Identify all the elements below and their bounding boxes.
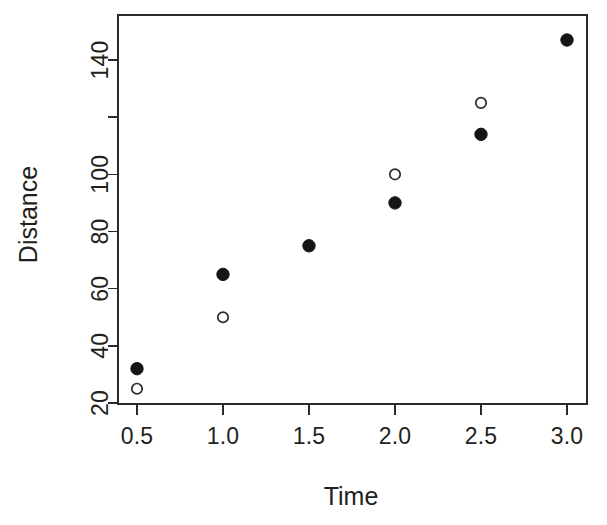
y-axis-title: Distance xyxy=(14,166,42,263)
x-axis-tick-labels: 0.51.01.52.02.53.0 xyxy=(121,423,584,449)
x-axis-tick-group xyxy=(137,404,567,415)
y-axis-tick-label: 60 xyxy=(87,276,113,302)
data-point-open xyxy=(476,98,486,108)
x-axis-tick-label: 2.0 xyxy=(379,423,412,449)
data-point-filled xyxy=(475,128,487,140)
y-axis-tick-label: 20 xyxy=(87,390,113,416)
x-axis-tick-label: 1.5 xyxy=(293,423,326,449)
data-point-open xyxy=(218,312,228,322)
data-point-filled xyxy=(389,197,401,209)
x-axis-title: Time xyxy=(324,482,379,510)
y-axis-tick-label: 140 xyxy=(87,41,113,80)
data-point-filled xyxy=(303,240,315,252)
plot-canvas: 20406080100140 0.51.01.52.02.53.0 Distan… xyxy=(0,0,607,525)
data-point-filled xyxy=(131,363,143,375)
plot-box-border xyxy=(118,15,587,404)
x-axis-tick-label: 0.5 xyxy=(121,423,154,449)
x-axis-tick-label: 1.0 xyxy=(207,423,240,449)
data-point-open xyxy=(390,169,400,179)
data-point-open xyxy=(132,384,142,394)
data-point-filled xyxy=(217,268,229,280)
x-axis-tick-label: 2.5 xyxy=(465,423,498,449)
y-axis-tick-label: 40 xyxy=(87,333,113,359)
scatter-plot-figure: 20406080100140 0.51.01.52.02.53.0 Distan… xyxy=(0,0,607,525)
data-point-group xyxy=(131,34,573,394)
y-axis-tick-label: 80 xyxy=(87,219,113,245)
x-axis-tick-label: 3.0 xyxy=(551,423,584,449)
data-point-filled xyxy=(561,34,573,46)
y-axis-tick-labels: 20406080100140 xyxy=(87,41,113,416)
plot-frame xyxy=(118,15,587,404)
y-axis-tick-label: 100 xyxy=(87,155,113,194)
